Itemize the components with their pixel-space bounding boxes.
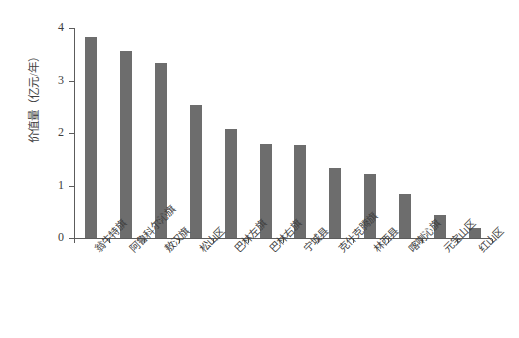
y-tick-label: 3 bbox=[46, 74, 64, 86]
y-tick-label: 4 bbox=[46, 21, 64, 33]
bar bbox=[225, 129, 237, 238]
bar bbox=[329, 168, 341, 238]
bar bbox=[190, 105, 202, 238]
bars-group bbox=[74, 28, 492, 238]
y-tick-label: 0 bbox=[46, 231, 64, 243]
x-tick-mark bbox=[74, 239, 75, 243]
bar-chart: 价值量（亿元/年） 01234 翁牛特旗阿鲁科尔沁旗敖汉旗松山区巴林左旗巴林右旗… bbox=[0, 0, 519, 338]
bar bbox=[120, 51, 132, 238]
y-axis-title: 价值量（亿元/年） bbox=[25, 35, 49, 160]
bar bbox=[85, 37, 97, 238]
bar bbox=[399, 194, 411, 238]
y-tick-label: 1 bbox=[46, 179, 64, 191]
y-tick-label: 2 bbox=[46, 126, 64, 138]
